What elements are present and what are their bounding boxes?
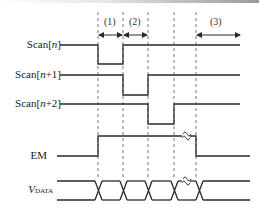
waveform-vdata <box>57 181 250 200</box>
waveform-em <box>57 136 250 156</box>
break-mark-vdata <box>182 177 191 185</box>
break-mark-em <box>182 132 191 140</box>
waveform-scan-n1 <box>60 75 240 95</box>
waveform-scan-n2 <box>60 104 240 124</box>
timing-waveforms <box>0 0 259 211</box>
waveform-scan-n <box>60 45 240 64</box>
